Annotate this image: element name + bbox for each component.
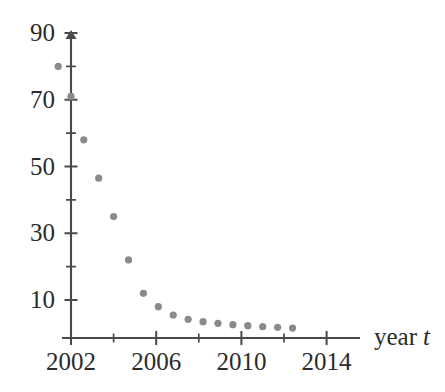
data-point [199, 318, 206, 325]
y-axis-arrowhead [66, 30, 77, 39]
x-tick-label-2006: 2006 [131, 348, 181, 375]
data-point [185, 316, 192, 323]
data-point [274, 324, 281, 331]
y-tick-label-10: 10 [30, 286, 55, 313]
x-axis-group: 2002200620102014 yeart [46, 323, 431, 375]
data-point [67, 93, 74, 100]
data-point [289, 324, 296, 331]
data-point [170, 311, 177, 318]
y-tick-label-50: 50 [30, 153, 55, 180]
x-tick-label-2014: 2014 [302, 348, 353, 375]
y-axis-group: 9070503010 [30, 19, 78, 339]
y-tick-label-30: 30 [30, 219, 55, 246]
data-point [214, 320, 221, 327]
x-tick-label-2002: 2002 [46, 348, 96, 375]
data-point [140, 290, 147, 297]
y-tick-label-70: 70 [30, 86, 55, 113]
data-point [259, 323, 266, 330]
data-point-series [55, 63, 297, 332]
data-point [55, 63, 62, 70]
x-tick-label-2010: 2010 [216, 348, 266, 375]
x-axis-tick-labels: 2002200620102014 [46, 348, 352, 375]
chart-canvas: 9070503010 2002200620102014 yeart [0, 0, 445, 392]
x-axis-title: yeart [374, 323, 431, 350]
data-point [229, 321, 236, 328]
data-point [110, 213, 117, 220]
data-point [125, 256, 132, 263]
data-point [244, 322, 251, 329]
data-point [155, 303, 162, 310]
y-tick-label-90: 90 [30, 19, 55, 46]
scatter-chart: 9070503010 2002200620102014 yeart [0, 0, 445, 392]
data-point [80, 136, 87, 143]
data-point [95, 175, 102, 182]
y-axis-tick-labels: 9070503010 [30, 19, 55, 313]
